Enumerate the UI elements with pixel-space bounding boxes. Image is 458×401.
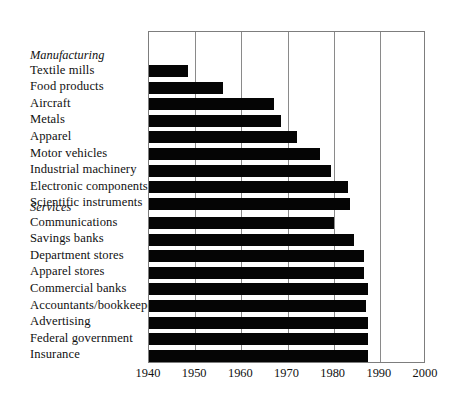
bar-industrial-machinery	[149, 165, 331, 177]
tick-label-1940: 1940	[128, 366, 168, 380]
bar-accountants-bookkeepers	[149, 300, 366, 312]
category-label-apparel-stores: Apparel stores	[30, 265, 105, 278]
category-label-advertising: Advertising	[30, 315, 91, 328]
bar-apparel-stores	[149, 267, 364, 279]
bar-communications	[149, 217, 334, 229]
bar-federal-government	[149, 333, 368, 345]
tick-label-1990: 1990	[359, 366, 399, 380]
category-label-textile-mills: Textile mills	[30, 64, 94, 77]
tick-label-1960: 1960	[220, 366, 260, 380]
category-label-savings-banks: Savings banks	[30, 232, 104, 245]
category-label-column: ManufacturingTextile millsFood productsA…	[0, 0, 146, 401]
category-label-industrial-machinery: Industrial machinery	[30, 163, 137, 176]
category-label-federal-government: Federal government	[30, 332, 133, 345]
tick-label-1980: 1980	[313, 366, 353, 380]
category-label-department-stores: Department stores	[30, 249, 124, 262]
employment-peak-bar-chart: ManufacturingTextile millsFood productsA…	[0, 0, 458, 401]
tick-label-1970: 1970	[267, 366, 307, 380]
category-label-motor-vehicles: Motor vehicles	[30, 147, 107, 160]
group-header-services: Services	[30, 201, 71, 214]
category-label-food-products: Food products	[30, 80, 104, 93]
plot-area	[148, 31, 425, 363]
category-label-metals: Metals	[30, 113, 65, 126]
bar-food-products	[149, 82, 223, 94]
x-axis-tick-labels: 1940195019601970198019902000	[0, 366, 458, 386]
group-header-manufacturing: Manufacturing	[30, 49, 104, 62]
category-label-apparel: Apparel	[30, 130, 71, 143]
category-label-communications: Communications	[30, 216, 117, 229]
category-label-electronic-components: Electronic components	[30, 180, 148, 193]
bar-motor-vehicles	[149, 148, 320, 160]
tick-label-1950: 1950	[174, 366, 214, 380]
bar-commercial-banks	[149, 283, 368, 295]
bar-metals	[149, 115, 281, 127]
bar-advertising	[149, 317, 368, 329]
category-label-commercial-banks: Commercial banks	[30, 282, 126, 295]
bar-scientific-instruments	[149, 198, 350, 210]
tick-label-2000: 2000	[405, 366, 445, 380]
bar-insurance	[149, 350, 368, 362]
gridline-1990	[380, 32, 381, 362]
bar-electronic-components	[149, 181, 348, 193]
bar-apparel	[149, 131, 297, 143]
bar-textile-mills	[149, 65, 188, 77]
bar-department-stores	[149, 250, 364, 262]
category-label-accountants-bookkeepers: Accountants/bookkeepers	[30, 299, 162, 312]
category-label-aircraft: Aircraft	[30, 97, 71, 110]
bar-savings-banks	[149, 234, 354, 246]
bar-aircraft	[149, 98, 274, 110]
category-label-insurance: Insurance	[30, 348, 80, 361]
